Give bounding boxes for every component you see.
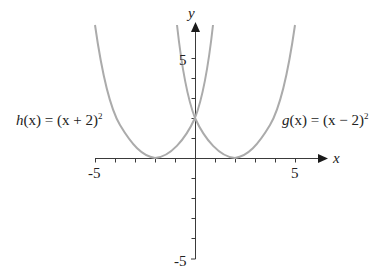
g-function-label: g(x) = (x − 2)2: [282, 111, 368, 129]
y-axis-ticks: [192, 59, 196, 239]
y-tick-label-5: 5: [179, 52, 187, 68]
y-tick-label-neg5: -5: [174, 253, 187, 269]
g-expression: (x) = (x − 2): [290, 112, 364, 129]
h-expression: (x) = (x + 2): [24, 112, 98, 129]
h-function-label: h(x) = (x + 2)2: [16, 111, 102, 129]
h-exponent: 2: [98, 111, 103, 121]
h-name: h: [16, 112, 24, 128]
x-tick-label-5: 5: [291, 165, 299, 181]
y-axis-label: y: [186, 5, 195, 21]
g-exponent: 2: [364, 111, 369, 121]
chart-canvas: x y -5 5 5 -5 h(x) = (x + 2)2 g(x) = (x …: [0, 0, 383, 276]
x-axis-label: x: [332, 150, 340, 166]
x-tick-label-neg5: -5: [88, 165, 101, 181]
y-axis-arrow-icon: [191, 22, 200, 32]
x-axis-arrow-icon: [318, 154, 328, 163]
